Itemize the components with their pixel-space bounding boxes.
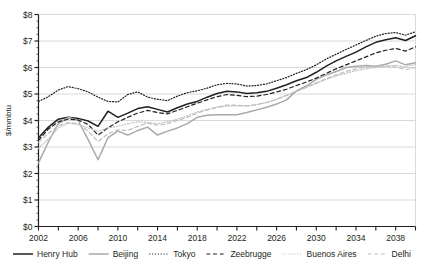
x-tick-label: 2010 xyxy=(108,233,127,243)
y-tick-label: $6 xyxy=(23,63,33,73)
legend-label-zeebrugge: Zeebrugge xyxy=(230,249,271,259)
legend-label-beijing: Beijing xyxy=(113,249,139,259)
y-tick-label: $0 xyxy=(23,222,33,232)
x-tick-label: 2002 xyxy=(29,233,48,243)
y-axis-title-text: $/mmbtu xyxy=(4,105,13,136)
x-tick-label: 2018 xyxy=(188,233,207,243)
y-axis-title: $/mmbtu xyxy=(4,105,13,136)
y-tick-label: $7 xyxy=(23,36,33,46)
chart-container: $0$1$2$3$4$5$6$7$8 200220062010201420182… xyxy=(0,0,424,267)
x-tick-label: 2030 xyxy=(307,233,326,243)
legend-label-delhi: Delhi xyxy=(392,249,411,259)
y-tick-label: $4 xyxy=(23,116,33,126)
x-tick-label: 2038 xyxy=(386,233,405,243)
line-chart: $0$1$2$3$4$5$6$7$8 200220062010201420182… xyxy=(0,0,424,267)
legend-label-tokyo: Tokyo xyxy=(173,249,195,259)
x-tick-label: 2026 xyxy=(267,233,286,243)
x-tick-label: 2034 xyxy=(347,233,366,243)
y-tick-label: $5 xyxy=(23,89,33,99)
y-tick-label: $1 xyxy=(23,195,33,205)
x-tick-label: 2014 xyxy=(148,233,167,243)
y-tick-label: $2 xyxy=(23,169,33,179)
x-tick-label: 2006 xyxy=(69,233,88,243)
legend-label-buenos-aires: Buenos Aires xyxy=(307,249,357,259)
x-tick-label: 2022 xyxy=(227,233,246,243)
y-tick-label: $3 xyxy=(23,142,33,152)
legend-label-henry-hub: Henry Hub xyxy=(37,249,78,259)
y-tick-label: $8 xyxy=(23,10,33,20)
